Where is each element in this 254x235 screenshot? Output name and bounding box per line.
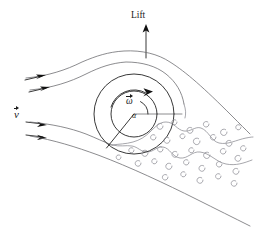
lift-label: Lift	[131, 11, 145, 21]
magnus-effect-diagram	[0, 0, 254, 235]
inflow-arrow-2	[29, 87, 50, 93]
figure-root: Lift v ω α	[0, 0, 254, 235]
inflow-arrow-1	[25, 75, 46, 81]
vector-arrow-overline-v	[14, 106, 19, 110]
angle-alpha-label: α	[132, 112, 136, 120]
angle-arc	[141, 102, 149, 114]
angular-velocity-vector-glyph: ω	[126, 94, 133, 107]
velocity-vector-label: v	[14, 106, 19, 120]
wake-eddies	[116, 120, 246, 187]
angular-velocity-vector-label: ω	[126, 94, 133, 107]
velocity-vector-glyph: v	[14, 106, 19, 120]
vector-arrow-overline-omega	[126, 94, 133, 98]
upper-streamlines	[26, 51, 250, 134]
